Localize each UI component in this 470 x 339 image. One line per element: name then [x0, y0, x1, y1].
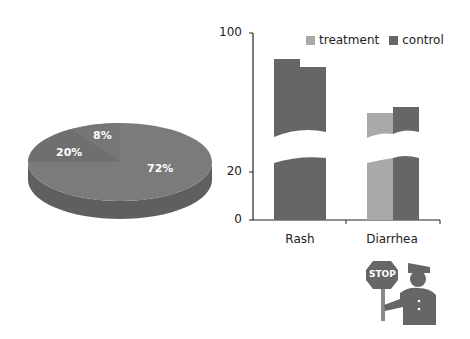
category-rash: Rash [260, 232, 340, 246]
legend: treatment control [306, 33, 444, 47]
legend-swatch-control [389, 36, 398, 45]
stop-sign-text: STOP [369, 269, 396, 279]
bar-chart: 100 20 0 Rash Diarrhea treatment control [0, 0, 470, 260]
legend-label-control: control [402, 33, 444, 47]
ytick-20: 20 [212, 164, 242, 178]
legend-label-treatment: treatment [319, 33, 379, 47]
ytick-0: 0 [212, 212, 242, 226]
ytick-100: 100 [212, 25, 242, 39]
traffic-officer-stop-icon: STOP [360, 255, 440, 327]
category-diarrhea: Diarrhea [352, 232, 432, 246]
legend-swatch-treatment [306, 36, 315, 45]
